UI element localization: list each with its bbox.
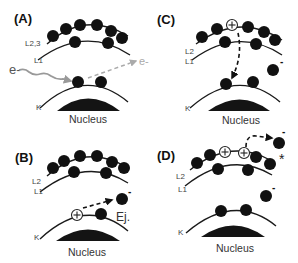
nucleus	[56, 230, 120, 242]
electron	[250, 151, 262, 163]
shell-label-l2: L2	[176, 172, 185, 181]
electron	[264, 158, 276, 170]
shell-label-l1: L1	[178, 185, 187, 194]
transition-arrow	[232, 33, 240, 78]
incident-arrow	[19, 69, 71, 81]
electron	[219, 36, 231, 48]
panel-a: (A) L2,3 L1 e- K e- Nucleus	[9, 11, 149, 125]
electron	[204, 149, 216, 161]
electron	[106, 156, 118, 168]
electron	[116, 32, 128, 44]
electron	[100, 167, 112, 179]
panel-d: (D) L2 L1 - * - K N	[157, 126, 285, 254]
electron	[258, 26, 270, 38]
electron	[191, 157, 203, 169]
electron	[220, 78, 232, 90]
electron	[215, 205, 227, 217]
ejection-arrow	[83, 200, 112, 208]
electron	[242, 164, 254, 176]
vacancy-hole	[239, 148, 250, 159]
shell-label-l2: L2	[32, 177, 41, 186]
panel-b: (B) L2 L1 K - Ej. Nucleus	[15, 150, 131, 258]
nucleus-label: Nucleus	[68, 246, 106, 258]
shell-label-l1: L1	[34, 56, 43, 65]
electron	[240, 204, 252, 216]
electron	[95, 208, 107, 220]
free-electron-charge: -	[280, 56, 283, 67]
free-electron	[267, 64, 279, 76]
shell-label-l1: L1	[185, 57, 194, 66]
panel-label-a: (A)	[14, 11, 32, 26]
nucleus-label: Nucleus	[69, 113, 107, 125]
vacancy-hole	[227, 20, 238, 31]
scatter-arrow	[88, 61, 136, 78]
electron	[196, 31, 208, 43]
nucleus-label: Nucleus	[222, 114, 260, 126]
electron	[60, 23, 72, 35]
shell-label-k: K	[34, 233, 40, 242]
electron	[95, 76, 107, 88]
panel-label-b: (B)	[15, 150, 33, 165]
shell-label-l1: L1	[34, 187, 43, 196]
scattered-electron-label: e-	[139, 55, 149, 67]
shell-label-k: K	[36, 103, 42, 112]
auger-electron	[273, 137, 285, 149]
electron	[69, 36, 81, 48]
shell-label-l2: L2	[185, 47, 194, 56]
electron	[91, 19, 103, 31]
electron	[72, 76, 84, 88]
ejected-label: Ej.	[116, 210, 130, 224]
l1-orbit	[40, 171, 128, 192]
electron	[47, 30, 59, 42]
nucleus	[57, 99, 120, 112]
panel-label-c: (C)	[157, 12, 175, 27]
incident-electron-label: e-	[9, 62, 21, 77]
nucleus	[208, 100, 270, 112]
electron	[47, 162, 59, 174]
electron	[242, 21, 254, 33]
auger-process-diagram: (A) L2,3 L1 e- K e- Nucleus	[0, 0, 298, 263]
electron	[68, 166, 80, 178]
l1-orbit	[38, 41, 130, 60]
l1-orbit	[192, 42, 282, 60]
nucleus	[201, 226, 265, 238]
l23-electrons	[47, 19, 128, 44]
electron	[74, 150, 86, 162]
vacancy-hole	[72, 210, 83, 221]
electron	[91, 150, 103, 162]
electron	[212, 163, 224, 175]
electron	[269, 34, 281, 46]
electron	[118, 162, 130, 174]
electron	[102, 37, 114, 49]
electron	[105, 25, 117, 37]
electron	[74, 19, 86, 31]
electron	[247, 76, 259, 88]
panel-c: (C) L2 L1 - K Nucleus	[157, 12, 283, 126]
shell-label-k: K	[178, 228, 184, 237]
vacancy-hole	[220, 147, 231, 158]
electron	[250, 38, 262, 50]
shell-label-l23: L2,3	[25, 39, 41, 48]
auger-electron-charge: -	[282, 126, 285, 137]
electron	[58, 155, 70, 167]
auger-arrow	[246, 136, 272, 147]
free-electron	[260, 190, 272, 202]
nucleus-label: Nucleus	[216, 242, 254, 254]
panel-label-d: (D)	[157, 148, 175, 163]
free-electron-charge: -	[272, 182, 275, 193]
auger-marker: *	[279, 151, 285, 167]
ejected-electron-charge: -	[128, 186, 131, 197]
shell-label-k: K	[185, 104, 191, 113]
ejected-electron	[116, 193, 128, 205]
electron	[211, 23, 223, 35]
